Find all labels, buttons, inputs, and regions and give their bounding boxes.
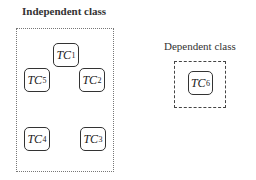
test-case-node-tc4: TC4 [24,127,50,151]
node-subscript: 6 [206,79,210,88]
test-case-node-tc5: TC5 [24,68,50,92]
independent-class-title: Independent class [22,5,106,17]
node-label: TC [27,73,42,88]
test-case-node-tc3: TC3 [80,127,106,151]
dependent-class-title: Dependent class [164,40,236,52]
dependent-class-group: TC6 [174,61,226,108]
node-subscript: 1 [72,51,76,60]
node-subscript: 5 [43,76,47,85]
node-label: TC [56,48,71,63]
independent-class-group: TC1 TC5 TC2 TC4 TC3 [16,28,114,172]
test-case-node-tc6: TC6 [188,71,213,95]
test-case-node-tc1: TC1 [53,43,79,67]
test-case-node-tc2: TC2 [79,68,105,92]
node-subscript: 2 [98,76,102,85]
node-label: TC [82,73,97,88]
node-subscript: 3 [99,135,103,144]
node-subscript: 4 [43,135,47,144]
node-label: TC [83,132,98,147]
node-label: TC [191,76,206,91]
node-label: TC [27,132,42,147]
